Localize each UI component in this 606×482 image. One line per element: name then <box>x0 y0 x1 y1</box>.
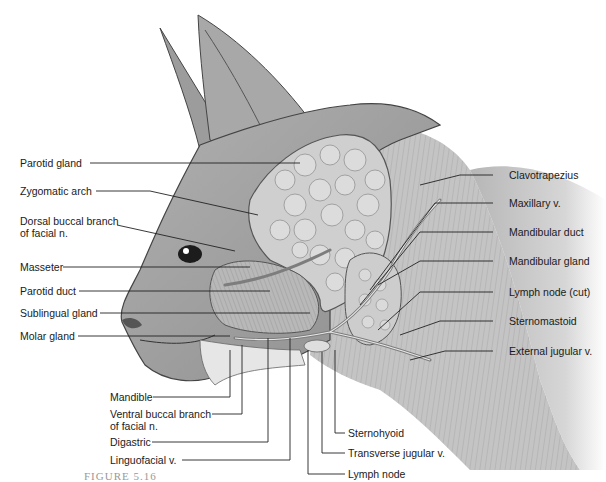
label-parotid-gland: Parotid gland <box>20 157 82 169</box>
label-sternohyoid: Sternohyoid <box>348 427 404 439</box>
label-clavotrapezius: Clavotrapezius <box>509 169 578 181</box>
label-mandibular-gland: Mandibular gland <box>509 255 590 267</box>
label-maxillary-v: Maxillary v. <box>509 197 561 209</box>
label-ventral-buccal-branch: Ventral buccal branch of facial n. <box>110 408 211 432</box>
label-sublingual-gland: Sublingual gland <box>20 307 98 319</box>
label-molar-gland: Molar gland <box>20 330 75 342</box>
label-mandible: Mandible <box>110 391 153 403</box>
label-linguofacial-v: Linguofacial v. <box>110 454 176 466</box>
label-lymph-node: Lymph node <box>348 468 405 480</box>
label-digastric: Digastric <box>110 436 151 448</box>
label-sternomastoid: Sternomastoid <box>509 315 577 327</box>
label-external-jugular-v: External jugular v. <box>509 345 592 357</box>
label-dorsal-buccal-branch-line1: Dorsal buccal branch <box>20 215 119 227</box>
label-lymph-node-cut: Lymph node (cut) <box>509 286 590 298</box>
label-parotid-duct: Parotid duct <box>20 285 76 297</box>
label-zygomatic-arch: Zygomatic arch <box>20 185 92 197</box>
eye-icon <box>178 245 202 263</box>
figure-caption: FIGURE 5.16 <box>84 470 157 482</box>
label-ventral-buccal-branch-line1: Ventral buccal branch <box>110 408 211 420</box>
label-mandibular-duct: Mandibular duct <box>509 226 584 238</box>
label-transverse-jugular-v: Transverse jugular v. <box>348 447 445 459</box>
label-ventral-buccal-branch-line2: of facial n. <box>110 420 211 432</box>
label-dorsal-buccal-branch: Dorsal buccal branch of facial n. <box>20 215 119 239</box>
label-masseter: Masseter <box>20 261 63 273</box>
label-dorsal-buccal-branch-line2: of facial n. <box>20 227 119 239</box>
